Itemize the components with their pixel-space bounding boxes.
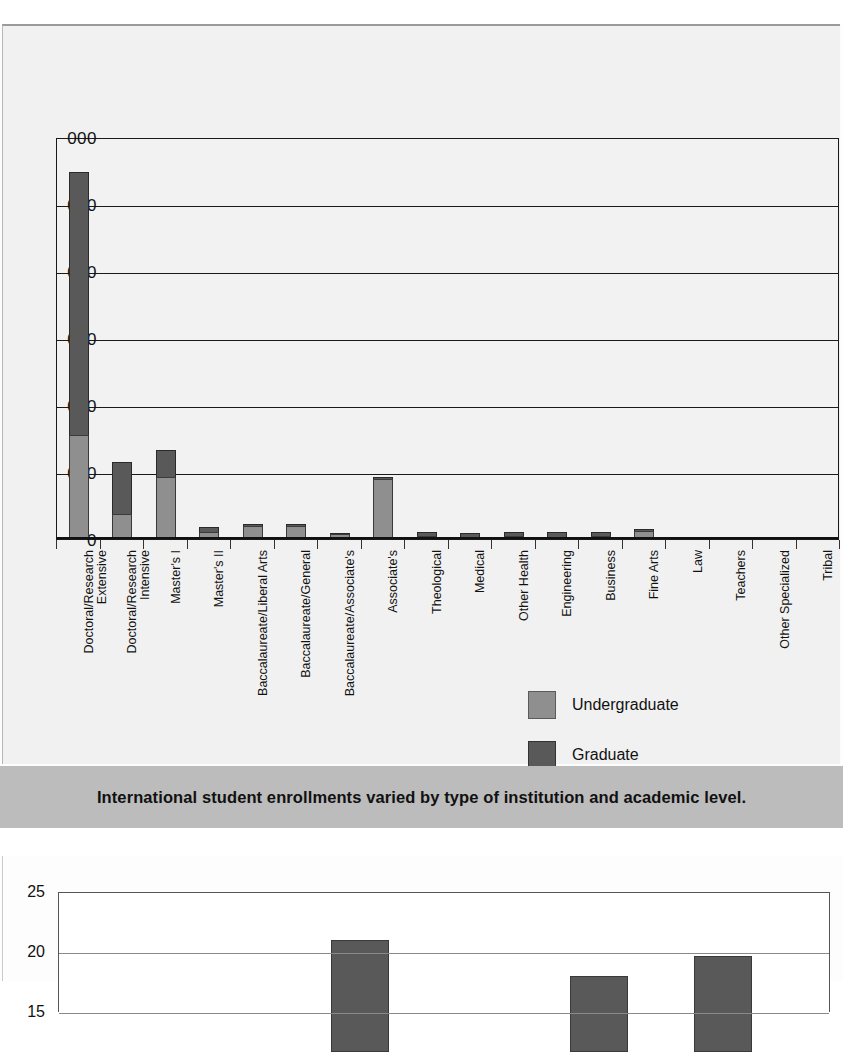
legend-label-undergraduate: Undergraduate	[572, 696, 679, 714]
legend-label-graduate: Graduate	[572, 746, 639, 764]
x-axis-tick	[491, 540, 492, 549]
secondary-y-axis-tick-label: 25	[27, 883, 45, 901]
secondary-y-axis-tick-label: 20	[27, 943, 45, 961]
x-axis-tick	[143, 540, 144, 549]
x-axis-category-label: Master's II	[213, 550, 226, 607]
x-axis-tick	[578, 540, 579, 549]
bar-group	[373, 477, 393, 539]
x-axis-category-label: Medical	[474, 550, 487, 593]
main-chart-plot-area: 0000000000000000000	[56, 138, 839, 540]
x-axis-tick	[709, 540, 710, 549]
x-axis-category-label: Other Health	[518, 550, 531, 621]
bar-segment-undergraduate	[373, 479, 393, 539]
x-axis-category-label: Engineering	[561, 550, 574, 617]
legend-item-graduate: Graduate	[528, 741, 679, 769]
secondary-chart-gridline	[59, 953, 829, 954]
x-axis-category-label: Other Specialized	[779, 550, 792, 649]
page-top-margin	[0, 0, 843, 24]
secondary-bar	[570, 976, 628, 1052]
figure-caption-band: International student enrollments varied…	[0, 766, 843, 828]
x-axis-tick	[100, 540, 101, 549]
secondary-chart-plot-area	[58, 892, 830, 1012]
x-axis-tick	[839, 540, 840, 549]
x-axis-category-label: Baccalaureate/Associate's	[344, 550, 357, 696]
bar-segment-graduate	[112, 462, 132, 514]
secondary-chart-gridline	[59, 1013, 829, 1014]
legend-item-undergraduate: Undergraduate	[528, 691, 679, 719]
secondary-bar	[331, 940, 389, 1052]
x-axis-tick	[535, 540, 536, 549]
x-axis-category-label: Business	[605, 550, 618, 601]
bar-segment-graduate	[69, 172, 89, 435]
x-axis-category-label: Baccalaureate/Liberal Arts	[257, 550, 270, 696]
x-axis-category-label: Associate's	[387, 550, 400, 613]
x-axis-category-label: Fine Arts	[648, 550, 661, 599]
x-axis-category-label: Master's I	[170, 550, 183, 604]
bar-segment-undergraduate	[112, 514, 132, 539]
legend-swatch-undergraduate	[528, 691, 556, 719]
x-axis-tick	[665, 540, 666, 549]
secondary-bar	[694, 956, 752, 1052]
legend-swatch-graduate	[528, 741, 556, 769]
x-axis-category-labels: Doctoral/ResearchExtensiveDoctoral/Resea…	[56, 550, 839, 680]
x-axis-tick	[230, 540, 231, 549]
x-axis-tick-marks	[56, 540, 839, 549]
x-axis-category-label: Doctoral/ResearchIntensive	[126, 550, 152, 654]
x-axis-category-label: Doctoral/ResearchExtensive	[83, 550, 109, 654]
secondary-y-axis-tick-labels: 252015	[3, 892, 53, 1012]
x-axis-baseline	[57, 537, 838, 539]
bar-series-container	[57, 139, 838, 539]
x-axis-category-label: Law	[692, 550, 705, 573]
bar-group	[69, 172, 89, 539]
x-axis-tick	[274, 540, 275, 549]
x-axis-tick	[448, 540, 449, 549]
x-axis-tick	[796, 540, 797, 549]
x-axis-tick	[361, 540, 362, 549]
x-axis-tick	[622, 540, 623, 549]
secondary-y-axis-tick-label: 15	[27, 1003, 45, 1021]
x-axis-category-label: Theological	[431, 550, 444, 614]
bar-group	[156, 450, 176, 539]
bar-segment-graduate	[156, 450, 176, 477]
x-axis-tick	[752, 540, 753, 549]
bar-segment-undergraduate	[69, 435, 89, 539]
x-axis-tick	[56, 540, 57, 549]
x-axis-category-label: Tribal	[822, 550, 835, 581]
figure-caption-text: International student enrollments varied…	[97, 788, 746, 807]
x-axis-tick	[187, 540, 188, 549]
x-axis-category-label: Baccalaureate/General	[300, 550, 313, 678]
x-axis-tick	[317, 540, 318, 549]
main-chart-figure: 0000000000000000000 Doctoral/ResearchExt…	[2, 24, 840, 764]
bar-segment-undergraduate	[156, 477, 176, 539]
bar-group	[112, 462, 132, 539]
x-axis-tick	[404, 540, 405, 549]
section-gap	[0, 828, 843, 856]
secondary-chart-figure: 252015	[2, 856, 840, 981]
x-axis-category-label: Teachers	[735, 550, 748, 601]
